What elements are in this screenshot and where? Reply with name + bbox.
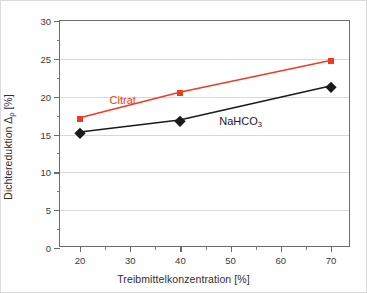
y-tick-minor	[57, 191, 61, 192]
x-tick-label: 50	[225, 255, 236, 266]
y-axis-title-unit: [%]	[2, 94, 14, 112]
chart-figure: 051015202530 203040506070 CitratNaHCO3 D…	[0, 0, 367, 293]
gridline	[60, 97, 349, 98]
gridline	[60, 210, 349, 211]
x-tick	[180, 246, 181, 252]
x-tick	[331, 246, 332, 252]
y-tick-minor	[57, 153, 61, 154]
plot-area: 051015202530 203040506070 CitratNaHCO3	[59, 20, 350, 247]
x-tick-label: 30	[125, 255, 136, 266]
y-tick	[54, 248, 60, 249]
data-point-citrat-20	[77, 116, 83, 122]
x-tick-label: 60	[275, 255, 286, 266]
y-tick-label: 25	[40, 53, 51, 64]
y-tick-label: 5	[46, 205, 51, 216]
series-label-main: NaHCO	[219, 116, 258, 128]
y-tick	[54, 97, 60, 98]
y-tick-label: 0	[46, 243, 51, 254]
data-point-citrat-70	[328, 58, 334, 64]
data-point-nahco3-20	[75, 128, 86, 139]
x-tick-label: 40	[175, 255, 186, 266]
y-tick	[54, 21, 60, 22]
x-tick	[281, 246, 282, 252]
x-tick-minor	[105, 246, 106, 250]
series-line-citrat	[80, 61, 329, 118]
x-tick	[130, 246, 131, 252]
series-label-citrat: Citrat	[110, 94, 136, 106]
y-tick-minor	[57, 116, 61, 117]
y-tick-minor	[57, 40, 61, 41]
y-tick-minor	[57, 78, 61, 79]
y-tick	[54, 210, 60, 211]
y-tick	[54, 135, 60, 136]
series-lines	[60, 21, 349, 246]
y-tick-label: 20	[40, 91, 51, 102]
y-tick-label: 30	[40, 16, 51, 27]
y-axis-title: Dichtereduktion Δρ [%]	[2, 47, 16, 247]
y-tick-label: 10	[40, 167, 51, 178]
x-tick-label: 70	[326, 255, 337, 266]
y-tick	[54, 59, 60, 60]
x-tick-minor	[256, 246, 257, 250]
x-tick-label: 20	[75, 255, 86, 266]
series-label-nahco3: NaHCO3	[219, 116, 262, 130]
y-axis-title-rho: ρ	[7, 112, 16, 116]
x-tick	[231, 246, 232, 252]
gridline	[60, 172, 349, 173]
y-tick-label: 15	[40, 129, 51, 140]
y-axis-title-main: Dichtereduktion Δ	[2, 116, 14, 199]
x-tick-minor	[206, 246, 207, 250]
x-tick	[80, 246, 81, 252]
x-tick-minor	[155, 246, 156, 250]
gridline	[60, 59, 349, 60]
data-point-nahco3-70	[326, 82, 337, 93]
y-tick-minor	[57, 229, 61, 230]
data-point-nahco3-40	[175, 116, 186, 127]
series-label-subscript: 3	[258, 120, 262, 129]
data-point-citrat-40	[177, 90, 183, 96]
x-tick-minor	[306, 246, 307, 250]
x-axis-title: Treibmittelkonzentration [%]	[1, 273, 366, 285]
gridline	[60, 135, 349, 136]
y-tick	[54, 172, 60, 173]
